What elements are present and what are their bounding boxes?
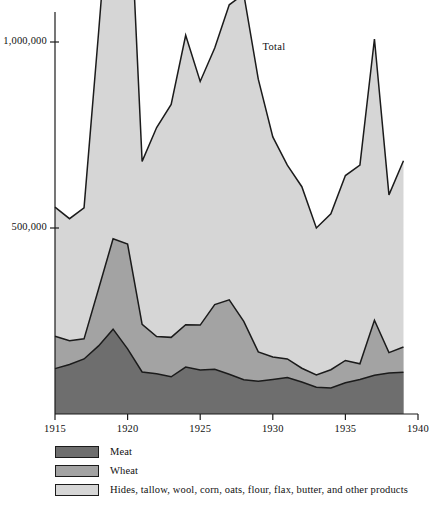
legend-item-other-products: Hides, tallow, wool, corn, oats, flour, … — [55, 481, 430, 498]
total-series-annotation: Total — [263, 41, 286, 52]
chart-figure: 500,0001,000,000 19151920192519301935194… — [0, 0, 436, 506]
x-tick-label: 1915 — [30, 423, 80, 434]
legend-swatch-other-products — [55, 484, 99, 496]
legend-swatch-wheat — [55, 465, 99, 477]
legend-item-wheat: Wheat — [55, 462, 430, 479]
x-tick-label: 1930 — [248, 423, 298, 434]
legend-item-meat: Meat — [55, 443, 430, 460]
legend-label-wheat: Wheat — [110, 465, 138, 476]
legend-label-other-products: Hides, tallow, wool, corn, oats, flour, … — [110, 484, 408, 495]
x-tick-label: 1920 — [103, 423, 153, 434]
x-tick-label: 1940 — [393, 423, 436, 434]
x-tick-label: 1935 — [320, 423, 370, 434]
x-axis-ticks — [55, 414, 418, 420]
legend-label-meat: Meat — [110, 446, 132, 457]
chart-legend: Meat Wheat Hides, tallow, wool, corn, oa… — [55, 443, 430, 500]
legend-swatch-meat — [55, 446, 99, 458]
y-tick-label: 500,000 — [11, 221, 47, 232]
x-tick-label: 1925 — [175, 423, 225, 434]
y-tick-label: 1,000,000 — [3, 35, 47, 46]
